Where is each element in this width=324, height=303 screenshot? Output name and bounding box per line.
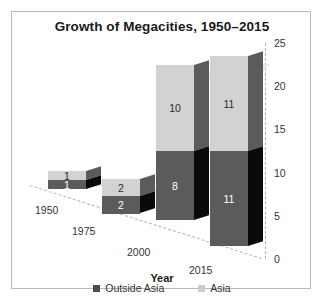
x-tick-1975: 1975: [72, 225, 95, 237]
y-tick-20: 20: [274, 80, 286, 92]
y-tick-15: 15: [274, 123, 286, 135]
bar-segment-asia-2000[interactable]: 10: [156, 65, 194, 151]
legend-item-outside-asia[interactable]: Outside Asia: [93, 282, 164, 294]
bar-segment-outside-asia-1950[interactable]: 1: [48, 180, 86, 189]
bar-segment-outside-asia-2000[interactable]: 8: [156, 151, 194, 220]
bar-label-outside-asia-2000: 8: [156, 151, 194, 220]
y-tick-5: 5: [274, 210, 280, 222]
bar-1950[interactable]: 1 1: [48, 171, 86, 189]
chart-title: Growth of Megacities, 1950–2015: [0, 19, 324, 34]
legend-swatch-icon-asia: [198, 285, 205, 292]
bar-side-face-asia-2000: [194, 60, 209, 151]
chart-legend: Outside Asia Asia: [0, 282, 324, 294]
legend-swatch-icon-outside-asia: [93, 285, 100, 292]
x-tick-2000: 2000: [127, 246, 150, 258]
bar-1975[interactable]: 2 2: [102, 179, 140, 214]
bar-2000[interactable]: 10 8: [156, 65, 194, 220]
y-tick-0: 0: [274, 253, 280, 265]
bar-side-face-outside-asia-2000: [194, 147, 209, 221]
legend-item-asia[interactable]: Asia: [198, 282, 230, 294]
x-tick-1950: 1950: [35, 204, 58, 216]
legend-label-asia: Asia: [210, 282, 230, 294]
bar-label-asia-1975: 2: [102, 179, 140, 196]
bar-label-outside-asia-1950: 1: [48, 180, 86, 189]
bar-label-asia-2000: 10: [156, 65, 194, 151]
bar-segment-outside-asia-1975[interactable]: 2: [102, 196, 140, 213]
y-tick-10: 10: [274, 167, 286, 179]
legend-label-outside-asia: Outside Asia: [105, 282, 164, 294]
bar-segment-asia-2015[interactable]: 11: [210, 56, 248, 151]
bar-side-face-outside-asia-1975: [140, 192, 155, 214]
bar-label-outside-asia-1975: 2: [102, 196, 140, 213]
bar-label-asia-2015: 11: [210, 56, 248, 151]
bar-side-face-outside-asia-2015: [248, 146, 263, 246]
chart-container: Growth of Megacities, 1950–2015 0 5 10 1…: [0, 0, 324, 303]
y-tick-25: 25: [274, 37, 286, 49]
plot-area: 0 5 10 15 20 25 1 1 2: [12, 40, 312, 270]
bar-segment-outside-asia-2015[interactable]: 11: [210, 151, 248, 246]
bar-2015[interactable]: 11 11: [210, 56, 248, 246]
bar-segment-asia-1975[interactable]: 2: [102, 179, 140, 196]
y-axis-line: [265, 43, 266, 259]
bar-side-face-asia-2015: [248, 51, 263, 151]
bar-label-outside-asia-2015: 11: [210, 151, 248, 246]
